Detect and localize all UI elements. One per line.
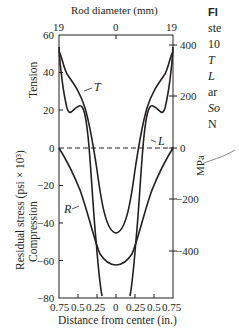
y2-tick-400: 400	[180, 40, 197, 51]
top-axis-title: Rod diameter (mm)	[71, 4, 158, 16]
y-tick-20: 20	[43, 105, 54, 116]
caption-line: N	[208, 116, 239, 132]
y2-tick-neg200: −200	[176, 194, 199, 205]
y-tick-0: 0	[49, 143, 55, 154]
y2-axis-title: MPa	[194, 155, 206, 176]
y-tick-60: 60	[43, 30, 54, 41]
caption-line: 10	[208, 36, 239, 52]
y-tick-40: 40	[43, 67, 54, 78]
y-tick-neg40: −40	[37, 218, 54, 229]
figure-caption: FI ste 10 T L ar So N	[208, 4, 239, 132]
curve-L	[59, 47, 173, 296]
x-tick-4: 0.25	[126, 302, 145, 313]
plot-frame	[59, 35, 173, 298]
caption-line: ste	[208, 20, 239, 36]
left-axis-ticks	[59, 73, 63, 261]
x-tick-3: 0	[113, 302, 119, 313]
x-tick-5: 0.5	[147, 302, 161, 313]
y2-tick-0: 0	[180, 143, 186, 154]
caption-line: ar	[208, 84, 239, 100]
y2-tick-neg400: −400	[176, 246, 199, 257]
top-tick-right: 19	[166, 22, 177, 33]
tension-label: Tension	[27, 62, 39, 98]
x-tick-6: 0.75	[162, 302, 181, 313]
caption-line: L	[208, 68, 239, 84]
caption-line: FI	[208, 4, 239, 20]
caption-line: T	[208, 52, 239, 68]
top-tick-left: 19	[53, 22, 64, 33]
x-tick-2: 0.25	[86, 302, 105, 313]
annotation-L: L	[158, 134, 165, 149]
x-tick-0: 0.75	[50, 302, 69, 313]
x-axis-title: Distance from center (in.)	[58, 314, 177, 326]
curve-R	[59, 148, 173, 265]
curve-T	[59, 52, 173, 233]
top-tick-center: 0	[113, 22, 119, 33]
y-axis-title: Residual stress (psi × 10³)	[14, 150, 26, 270]
caption-line: So	[208, 100, 239, 116]
bottom-axis-ticks	[78, 294, 154, 298]
y-tick-neg60: −60	[37, 256, 54, 267]
annotation-R: R	[64, 202, 71, 217]
x-tick-1: 0.5	[71, 302, 85, 313]
y-tick-neg20: −20	[37, 180, 54, 191]
compression-label: Compression	[27, 201, 39, 262]
y2-tick-200: 200	[180, 91, 197, 102]
annotation-T: T	[94, 80, 101, 95]
